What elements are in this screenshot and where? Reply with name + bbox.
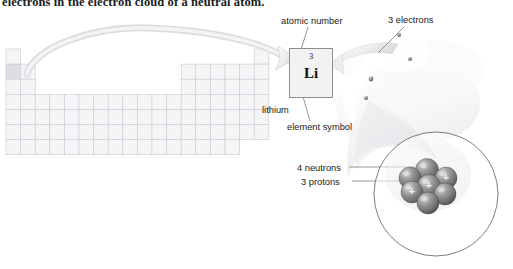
periodic-cell[interactable] [79,109,94,124]
periodic-cell[interactable] [152,125,167,140]
periodic-cell[interactable] [210,64,225,79]
sphere-highlight [421,196,428,201]
periodic-cell[interactable] [225,109,240,124]
periodic-cell[interactable] [196,94,211,109]
periodic-cell[interactable] [79,140,94,155]
periodic-cell[interactable] [225,125,240,140]
periodic-cell[interactable] [123,94,138,109]
periodic-cell[interactable] [167,125,182,140]
periodic-cell[interactable] [196,79,211,94]
periodic-cell[interactable] [108,94,123,109]
periodic-cell[interactable] [21,79,36,94]
periodic-cell[interactable] [152,140,167,155]
periodic-cell[interactable] [137,109,152,124]
label-3-protons: 3 protons [301,177,340,187]
periodic-cell[interactable] [167,109,182,124]
periodic-cell[interactable] [64,109,79,124]
periodic-cell[interactable] [240,79,255,94]
periodic-cell[interactable] [94,94,109,109]
periodic-cell[interactable] [152,109,167,124]
periodic-cell[interactable] [123,125,138,140]
periodic-cell[interactable] [94,125,109,140]
atomic-number-value: 3 [290,51,332,61]
proton-plus-glyph: + [443,171,449,183]
periodic-cell[interactable] [79,94,94,109]
periodic-cell[interactable] [21,94,36,109]
periodic-cell[interactable] [210,94,225,109]
periodic-cell[interactable] [210,140,225,155]
periodic-cell[interactable] [35,94,50,109]
periodic-cell[interactable] [181,79,196,94]
diagram-canvas: electrons in the electron cloud of a neu… [0,0,513,269]
periodic-cell[interactable] [21,140,36,155]
periodic-cell[interactable] [50,109,65,124]
periodic-cell[interactable] [210,79,225,94]
periodic-cell[interactable] [21,125,36,140]
periodic-cell[interactable] [79,125,94,140]
electron-dot [364,96,368,100]
sphere-highlight [438,187,445,192]
periodic-cell[interactable] [35,125,50,140]
periodic-cell[interactable] [137,94,152,109]
periodic-cell[interactable] [6,125,21,140]
periodic-cell[interactable] [240,125,255,140]
element-symbol-value: Li [290,65,332,82]
periodic-cell[interactable] [123,109,138,124]
periodic-cell[interactable] [225,64,240,79]
label-lithium: lithium [262,105,289,115]
periodic-cell-lithium[interactable] [6,64,21,79]
periodic-cell[interactable] [6,49,21,64]
periodic-cell[interactable] [210,109,225,124]
diagram-vector-layer: +++ [0,0,513,269]
periodic-cell[interactable] [64,94,79,109]
periodic-cell[interactable] [108,125,123,140]
periodic-cell[interactable] [108,140,123,155]
periodic-cell[interactable] [181,94,196,109]
periodic-cell[interactable] [50,94,65,109]
periodic-cell[interactable] [108,109,123,124]
periodic-cell[interactable] [225,140,240,155]
periodic-cell[interactable] [196,109,211,124]
periodic-cell[interactable] [137,140,152,155]
periodic-cell[interactable] [21,109,36,124]
periodic-cell[interactable] [64,125,79,140]
periodic-cell[interactable] [225,79,240,94]
periodic-cell[interactable] [181,109,196,124]
periodic-cell[interactable] [181,140,196,155]
periodic-cell[interactable] [167,140,182,155]
periodic-cell[interactable] [6,140,21,155]
periodic-cell[interactable] [181,64,196,79]
periodic-cell[interactable] [35,140,50,155]
periodic-cell[interactable] [123,140,138,155]
periodic-cell[interactable] [137,125,152,140]
periodic-cell[interactable] [152,94,167,109]
label-element-symbol: element symbol [287,122,352,132]
periodic-cell[interactable] [210,125,225,140]
label-4-neutrons: 4 neutrons [297,163,341,173]
periodic-cell[interactable] [64,140,79,155]
periodic-table-grid[interactable] [6,49,269,155]
periodic-cell[interactable] [254,79,269,94]
periodic-cell[interactable] [50,140,65,155]
periodic-cell[interactable] [240,109,255,124]
periodic-cell[interactable] [240,94,255,109]
periodic-cell[interactable] [196,64,211,79]
periodic-cell[interactable] [196,125,211,140]
periodic-cell[interactable] [94,140,109,155]
periodic-cell[interactable] [167,94,182,109]
periodic-cell[interactable] [6,109,21,124]
periodic-cell[interactable] [254,125,269,140]
periodic-cell[interactable] [35,109,50,124]
label-atomic-number: atomic number [281,16,343,26]
periodic-cell[interactable] [6,94,21,109]
periodic-cell[interactable] [181,125,196,140]
periodic-cell[interactable] [196,140,211,155]
periodic-cell[interactable] [254,64,269,79]
periodic-cell[interactable] [6,79,21,94]
proton-plus-glyph: + [426,179,432,191]
lithium-element-box[interactable]: 3 Li [289,48,333,98]
periodic-cell[interactable] [240,64,255,79]
periodic-cell[interactable] [94,109,109,124]
periodic-cell[interactable] [225,94,240,109]
periodic-cell[interactable] [50,125,65,140]
